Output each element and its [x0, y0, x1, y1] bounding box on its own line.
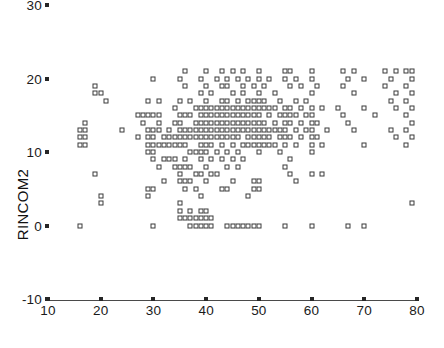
data-point-marker — [235, 135, 240, 140]
data-point-marker — [256, 142, 261, 147]
data-point-marker — [177, 164, 182, 169]
data-point-marker — [235, 113, 240, 118]
data-point-marker — [209, 172, 214, 177]
data-point-marker — [209, 135, 214, 140]
data-point-marker — [188, 150, 193, 155]
data-point-marker — [193, 223, 198, 228]
data-point-marker — [204, 83, 209, 88]
data-point-marker — [209, 216, 214, 221]
data-point-marker — [383, 83, 388, 88]
data-point-marker — [219, 113, 224, 118]
data-point-marker — [251, 179, 256, 184]
data-point-marker — [256, 113, 261, 118]
data-point-marker — [256, 186, 261, 191]
data-point-marker — [177, 201, 182, 206]
data-point-marker — [172, 120, 177, 125]
data-point-marker — [77, 223, 82, 228]
x-tick-label: 70 — [357, 303, 372, 318]
data-point-marker — [256, 91, 261, 96]
data-point-marker — [309, 150, 314, 155]
data-point-marker — [214, 120, 219, 125]
data-point-marker — [277, 98, 282, 103]
plot-area — [48, 5, 418, 300]
y-tick-label: 30 — [27, 0, 42, 13]
data-point-marker — [293, 76, 298, 81]
data-point-marker — [299, 83, 304, 88]
data-point-marker — [256, 98, 261, 103]
data-point-marker — [167, 127, 172, 132]
data-point-marker — [256, 105, 261, 110]
data-point-marker — [214, 135, 219, 140]
data-point-marker — [277, 113, 282, 118]
data-point-marker — [246, 120, 251, 125]
data-point-marker — [393, 135, 398, 140]
data-point-marker — [198, 135, 203, 140]
data-point-marker — [198, 105, 203, 110]
data-point-marker — [209, 120, 214, 125]
data-point-marker — [156, 120, 161, 125]
data-point-marker — [256, 76, 261, 81]
data-point-marker — [277, 135, 282, 140]
data-point-marker — [77, 142, 82, 147]
data-point-marker — [209, 91, 214, 96]
data-point-marker — [283, 113, 288, 118]
data-point-marker — [251, 98, 256, 103]
data-point-marker — [219, 127, 224, 132]
data-point-marker — [156, 164, 161, 169]
data-point-marker — [103, 98, 108, 103]
data-point-marker — [177, 76, 182, 81]
data-point-marker — [146, 186, 151, 191]
data-point-marker — [283, 69, 288, 74]
data-point-marker — [204, 142, 209, 147]
data-point-marker — [225, 98, 230, 103]
data-point-marker — [219, 69, 224, 74]
data-point-marker — [288, 172, 293, 177]
data-point-marker — [272, 120, 277, 125]
data-point-marker — [146, 142, 151, 147]
data-point-marker — [82, 120, 87, 125]
data-point-marker — [193, 127, 198, 132]
data-point-marker — [325, 127, 330, 132]
data-point-marker — [246, 127, 251, 132]
data-point-marker — [151, 150, 156, 155]
data-point-marker — [299, 105, 304, 110]
data-point-marker — [193, 172, 198, 177]
data-point-marker — [188, 179, 193, 184]
data-point-marker — [404, 83, 409, 88]
x-tick-label: 60 — [304, 303, 319, 318]
x-tick-mark — [99, 297, 103, 301]
data-point-marker — [404, 142, 409, 147]
data-point-marker — [235, 164, 240, 169]
data-point-marker — [172, 142, 177, 147]
data-point-marker — [204, 179, 209, 184]
data-point-marker — [341, 69, 346, 74]
data-point-marker — [230, 142, 235, 147]
data-point-marker — [198, 91, 203, 96]
data-point-marker — [140, 113, 145, 118]
data-point-marker — [409, 76, 414, 81]
data-point-marker — [193, 105, 198, 110]
data-point-marker — [183, 83, 188, 88]
data-point-marker — [93, 91, 98, 96]
data-point-marker — [172, 164, 177, 169]
data-point-marker — [119, 127, 124, 132]
data-point-marker — [288, 105, 293, 110]
data-point-marker — [177, 135, 182, 140]
data-point-marker — [235, 127, 240, 132]
data-point-marker — [188, 223, 193, 228]
data-point-marker — [188, 135, 193, 140]
data-point-marker — [188, 98, 193, 103]
scatter-plot-figure: -100102030 1020304050607080 RINCOM2 — [0, 0, 444, 348]
data-point-marker — [320, 142, 325, 147]
x-tick-label: 80 — [409, 303, 424, 318]
data-point-marker — [346, 76, 351, 81]
data-point-marker — [404, 69, 409, 74]
data-point-marker — [362, 142, 367, 147]
data-point-marker — [193, 216, 198, 221]
data-point-marker — [309, 142, 314, 147]
data-point-marker — [209, 223, 214, 228]
data-point-marker — [262, 127, 267, 132]
data-point-marker — [251, 105, 256, 110]
data-point-marker — [188, 216, 193, 221]
data-point-marker — [82, 142, 87, 147]
